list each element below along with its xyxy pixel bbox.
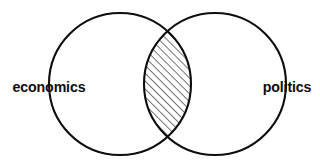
set-label-politics: politics: [263, 79, 312, 95]
set-label-economics: economics: [13, 79, 86, 95]
venn-diagram: economics politics: [0, 0, 320, 167]
venn-diagram-canvas: economics politics: [0, 0, 320, 167]
